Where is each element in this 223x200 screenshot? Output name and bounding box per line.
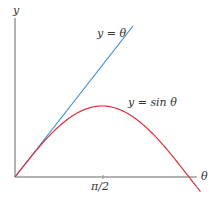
tick-label-pi-half: π/2 [91, 180, 109, 193]
series-line-y-equals-sin-theta [15, 106, 201, 192]
chart: y θ π/2 y = θ y = sin θ [0, 0, 223, 200]
x-axis-label: θ [201, 170, 208, 183]
line-label: y = θ [97, 27, 126, 40]
sine-label: y = sin θ [128, 96, 177, 109]
y-axis-label: y [13, 4, 19, 17]
